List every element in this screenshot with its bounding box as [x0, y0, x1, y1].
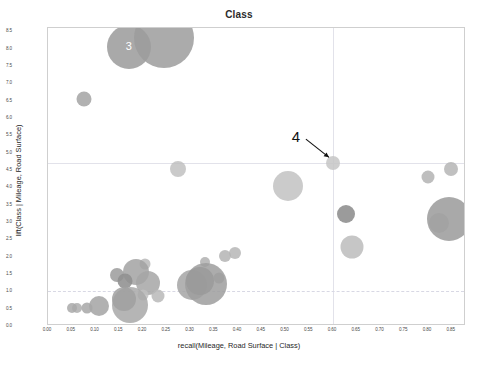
annotation-label: 3 [126, 40, 132, 52]
y-axis-ticks: 0.00.51.01.52.02.53.03.54.04.55.05.56.06… [0, 0, 478, 366]
y-tick-label: 6.5 [0, 97, 12, 102]
y-tick-label: 8.5 [0, 28, 12, 33]
y-tick-label: 6.0 [0, 115, 12, 120]
y-tick-label: 5.0 [0, 149, 12, 154]
y-tick-label: 5.5 [0, 132, 12, 137]
y-tick-label: 1.5 [0, 271, 12, 276]
y-tick-label: 3.5 [0, 201, 12, 206]
y-tick-label: 4.0 [0, 184, 12, 189]
y-tick-label: 8.0 [0, 45, 12, 50]
y-tick-label: 4.5 [0, 167, 12, 172]
y-axis-label: lift(Class | Mileage, Road Surface) [14, 81, 23, 281]
x-axis-label: recall(Mileage, Road Surface | Class) [0, 341, 478, 350]
x-tick-label: 0.85 [436, 327, 466, 332]
chart-root: Class 0.00.51.01.52.02.53.03.54.04.55.05… [0, 0, 478, 366]
y-tick-label: 7.5 [0, 63, 12, 68]
y-tick-label: 2.0 [0, 253, 12, 258]
annotation-label: 4 [292, 128, 300, 145]
y-tick-label: 0.0 [0, 323, 12, 328]
y-tick-label: 7.0 [0, 80, 12, 85]
y-tick-label: 1.0 [0, 288, 12, 293]
y-tick-label: 2.5 [0, 236, 12, 241]
y-tick-label: 0.5 [0, 305, 12, 310]
y-tick-label: 3.0 [0, 219, 12, 224]
